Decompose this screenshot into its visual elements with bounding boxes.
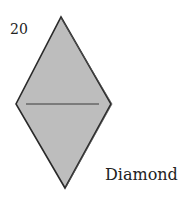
diamond-shape [16,17,111,188]
figure-caption: Diamond [105,167,178,183]
